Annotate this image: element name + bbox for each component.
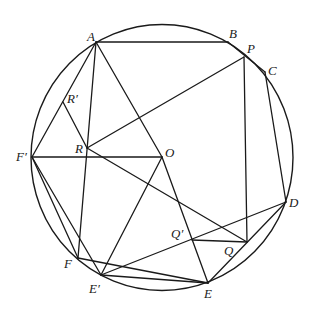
point-label-qp: Q′ (171, 226, 183, 241)
point-label-c: C (268, 63, 277, 78)
point-label-r: R (74, 141, 83, 156)
segment-ep-d (101, 202, 286, 275)
segment-f-e (78, 258, 208, 283)
geometry-diagram: ABPCR′ROF′DQ′QFE′E (0, 0, 313, 311)
segments-group (32, 42, 286, 283)
point-label-fp: F′ (15, 149, 27, 164)
point-label-o: O (165, 145, 175, 160)
segment-r-q (87, 148, 247, 242)
point-label-p: P (246, 41, 255, 56)
point-label-q: Q (224, 243, 234, 258)
point-label-e: E (203, 286, 212, 301)
point-label-ep: E′ (88, 281, 100, 296)
point-label-a: A (86, 29, 95, 44)
segment-fp-f (32, 157, 78, 258)
segment-a-fp (32, 42, 96, 157)
point-label-rp: R′ (66, 91, 78, 106)
segment-r-p (87, 57, 244, 148)
point-label-d: D (288, 195, 299, 210)
segment-a-o (96, 42, 162, 157)
point-label-b: B (229, 26, 237, 41)
point-label-f: F (63, 256, 73, 271)
segment-qp-q (192, 240, 247, 242)
segment-p-q (244, 57, 247, 242)
segment-o-e (162, 157, 208, 283)
point-labels-group: ABPCR′ROF′DQ′QFE′E (15, 26, 299, 301)
